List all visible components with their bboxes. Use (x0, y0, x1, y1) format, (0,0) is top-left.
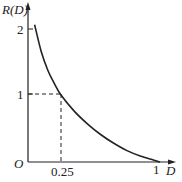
y-axis-label: R(D) (1, 2, 28, 17)
x-tick-label-025: 0.25 (51, 164, 74, 179)
x-tick-label-1: 1 (153, 162, 160, 177)
y-tick-label-2: 2 (17, 22, 24, 37)
x-axis-label: D (165, 163, 176, 178)
rd-curve (35, 25, 160, 162)
y-tick-label-1: 1 (17, 87, 24, 102)
origin-label: O (14, 156, 24, 171)
rate-distortion-chart: R(D) 2 1 O 0.25 1 D (0, 0, 182, 182)
